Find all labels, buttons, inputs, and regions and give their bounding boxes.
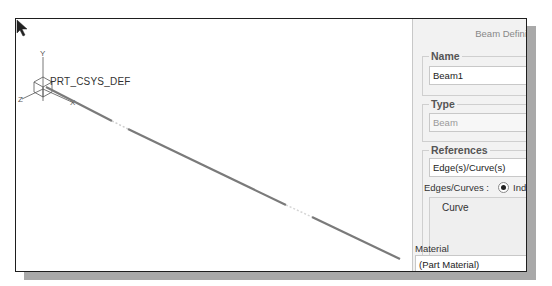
individual-radio[interactable] <box>498 182 509 193</box>
type-group: Type Beam <box>422 104 527 142</box>
references-group: References Edge(s)/Curve(s) Edges/Curves… <box>422 150 527 258</box>
model-graphics: Y Z X <box>16 19 412 271</box>
svg-text:Y: Y <box>40 49 46 58</box>
material-label: Material <box>415 243 449 254</box>
type-group-label: Type <box>429 98 457 110</box>
edges-curves-label: Edges/Curves : <box>424 182 489 193</box>
panel-title: Beam Defini <box>413 28 527 39</box>
graphics-viewport[interactable]: Y Z X PRT_CSYS_DEF <box>16 19 412 271</box>
list-item[interactable]: Curve <box>442 202 469 213</box>
individual-radio-label: Indi <box>513 182 527 193</box>
material-select[interactable]: (Part Material) <box>415 255 527 272</box>
csys-label: PRT_CSYS_DEF <box>50 76 131 87</box>
screenshot-frame: Y Z X PRT_CSYS_DEF Beam Defini Name Beam… <box>15 18 527 272</box>
beam-name-input[interactable]: Beam1 <box>429 66 527 85</box>
beam-type-select[interactable]: Beam <box>429 113 527 132</box>
mouse-cursor-icon <box>16 19 30 37</box>
svg-text:Z: Z <box>18 95 23 104</box>
name-group-label: Name <box>429 50 462 62</box>
beam-definition-panel: Beam Defini Name Beam1 Type Beam Referen… <box>412 19 527 271</box>
beam-curve <box>46 87 112 121</box>
references-group-label: References <box>429 144 490 156</box>
name-group: Name Beam1 <box>422 56 527 96</box>
reference-type-select[interactable]: Edge(s)/Curve(s) <box>429 158 527 177</box>
